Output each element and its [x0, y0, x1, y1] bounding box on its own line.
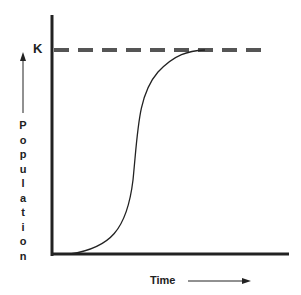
y-label-letter: i [17, 220, 29, 235]
y-label-letter: P [17, 118, 29, 133]
logistic-curve [70, 50, 205, 254]
x-axis-label: Time [150, 274, 175, 286]
y-label-letter: p [17, 147, 29, 162]
y-label-letter: n [17, 249, 29, 264]
y-label-letter: o [17, 234, 29, 249]
y-axis-label: P o p u l a t i o n [17, 118, 29, 263]
y-label-letter: a [17, 191, 29, 206]
y-label-letter: o [17, 133, 29, 148]
logistic-growth-chart [0, 0, 301, 295]
carrying-capacity-label: K [33, 41, 42, 56]
y-label-letter: t [17, 205, 29, 220]
y-label-letter: u [17, 162, 29, 177]
y-label-letter: l [17, 176, 29, 191]
x-label-arrowhead-icon [242, 278, 251, 284]
y-label-arrowhead-icon [20, 52, 26, 61]
